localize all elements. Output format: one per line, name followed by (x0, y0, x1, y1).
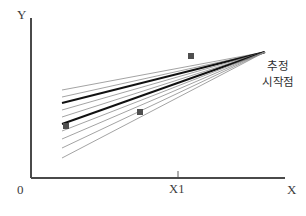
regression-line-7 (62, 52, 265, 131)
data-point-lower (63, 123, 69, 129)
data-point-upper (188, 53, 194, 59)
origin-label: 0 (17, 183, 24, 196)
annotation-line-2: 시작점 (251, 74, 305, 90)
regression-line-6 (62, 52, 265, 124)
fan-lines-group (62, 52, 265, 158)
annotation-line-1: 추정 (251, 58, 305, 74)
x1-tick-label: X1 (169, 183, 185, 196)
y-axis-label: Y (17, 8, 27, 21)
regression-line-10 (62, 52, 265, 158)
data-point-middle (137, 109, 143, 115)
regression-line-4 (62, 52, 265, 110)
estimation-start-point-annotation: 추정 시작점 (251, 58, 305, 91)
plot-canvas (0, 0, 306, 216)
regression-line-9 (62, 52, 265, 148)
x-axis-label: X (287, 183, 297, 196)
axes-group (31, 18, 285, 179)
figure-container: Y 0 X1 X 추정 시작점 (0, 0, 306, 216)
